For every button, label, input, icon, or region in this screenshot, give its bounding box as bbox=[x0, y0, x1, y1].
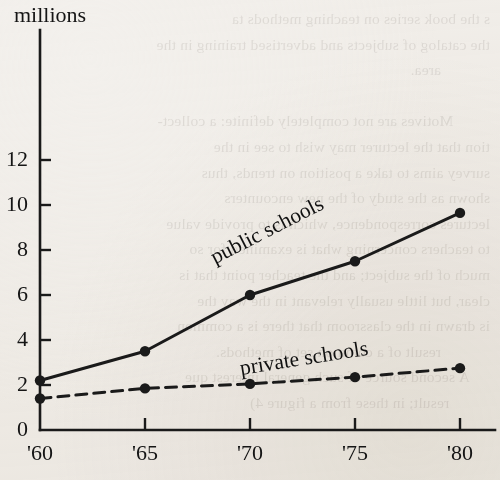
data-point-private-schools bbox=[35, 393, 45, 403]
data-point-public-schools bbox=[35, 375, 45, 385]
y-axis-tick-label: 12 bbox=[0, 146, 28, 172]
x-axis-tick-label: '65 bbox=[115, 440, 175, 466]
data-point-public-schools bbox=[140, 346, 150, 356]
y-axis-tick-label: 8 bbox=[0, 236, 28, 262]
y-axis-tick-label: 10 bbox=[0, 191, 28, 217]
line-chart: 024681012millions'60'65'70'75'80public s… bbox=[0, 0, 500, 480]
data-point-private-schools bbox=[455, 363, 465, 373]
data-point-private-schools bbox=[350, 372, 360, 382]
x-axis-tick-label: '80 bbox=[430, 440, 490, 466]
y-axis-tick-label: 0 bbox=[0, 416, 28, 442]
x-axis-tick-label: '75 bbox=[325, 440, 385, 466]
x-axis-tick-label: '60 bbox=[10, 440, 70, 466]
y-axis-tick-label: 6 bbox=[0, 281, 28, 307]
data-point-private-schools bbox=[245, 379, 255, 389]
data-point-public-schools bbox=[455, 208, 465, 218]
data-point-public-schools bbox=[245, 290, 255, 300]
y-axis-tick-label: 2 bbox=[0, 371, 28, 397]
x-axis-tick-label: '70 bbox=[220, 440, 280, 466]
data-point-private-schools bbox=[140, 383, 150, 393]
y-axis-title: millions bbox=[14, 2, 86, 28]
y-axis-tick-label: 4 bbox=[0, 326, 28, 352]
data-point-public-schools bbox=[350, 256, 360, 266]
